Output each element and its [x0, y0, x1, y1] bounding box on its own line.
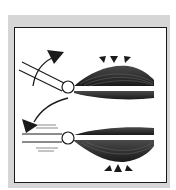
arm-muscle-diagram: [0, 0, 176, 190]
extension-illustration: [22, 98, 154, 172]
flexion-illustration: [19, 50, 154, 99]
contraction-indicators-top: [99, 56, 131, 63]
elbow-joint-icon: [62, 81, 74, 93]
arrow-down-left-triangle-icon: [99, 56, 106, 63]
arrow-down-right-triangle-icon: [124, 56, 131, 63]
motion-lines: [36, 125, 58, 151]
forearm-bone-extended: [22, 134, 62, 142]
arrow-up-left-triangle-icon: [104, 165, 112, 171]
biceps-contracted: [74, 66, 154, 86]
elbow-joint-icon: [62, 132, 74, 144]
arrow-up-right-triangle-icon: [125, 165, 133, 171]
biceps-relaxed: [74, 127, 154, 135]
contraction-indicators-bottom: [104, 164, 133, 172]
triceps-relaxed: [74, 91, 154, 99]
arrow-up-triangle-icon: [114, 164, 122, 172]
arrow-down-triangle-icon: [110, 56, 118, 63]
